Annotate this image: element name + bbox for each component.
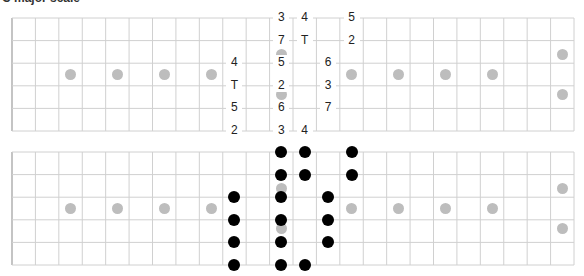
fret-marker-inlay bbox=[346, 203, 357, 214]
fret-marker-inlay bbox=[393, 203, 404, 214]
interval-label: 7 bbox=[320, 100, 336, 114]
fretboard-labeled-intervals: 3457T2456T23567234 bbox=[12, 18, 574, 131]
note-dot bbox=[275, 214, 287, 226]
fret-marker-inlay bbox=[159, 203, 170, 214]
interval-label: 2 bbox=[273, 78, 289, 92]
note-dot bbox=[228, 259, 240, 271]
interval-label: 5 bbox=[226, 100, 242, 114]
interval-label: 3 bbox=[273, 10, 289, 24]
fretboard-note-dots bbox=[12, 152, 574, 265]
fret-marker-inlay bbox=[393, 69, 404, 80]
interval-label: T bbox=[226, 78, 242, 92]
interval-label: 2 bbox=[226, 123, 242, 137]
fret-marker-inlay bbox=[65, 69, 76, 80]
interval-label: 5 bbox=[273, 55, 289, 69]
fret-marker-double-inlay bbox=[557, 183, 568, 194]
note-dot bbox=[275, 259, 287, 271]
fret-marker-inlay bbox=[487, 203, 498, 214]
fret-marker-inlay bbox=[65, 203, 76, 214]
interval-label: 3 bbox=[320, 78, 336, 92]
interval-label: T bbox=[297, 33, 313, 47]
interval-label: 2 bbox=[344, 33, 360, 47]
interval-label: 7 bbox=[273, 33, 289, 47]
fret-marker-inlay bbox=[112, 203, 123, 214]
fret-marker-inlay bbox=[346, 69, 357, 80]
note-dot bbox=[299, 169, 311, 181]
interval-label: 6 bbox=[273, 100, 289, 114]
interval-label: 4 bbox=[226, 55, 242, 69]
note-dot bbox=[322, 214, 334, 226]
note-dot bbox=[299, 259, 311, 271]
fret-marker-inlay bbox=[206, 69, 217, 80]
fret-marker-inlay bbox=[159, 69, 170, 80]
note-dot bbox=[299, 146, 311, 158]
interval-label: 3 bbox=[273, 123, 289, 137]
interval-label: 4 bbox=[297, 123, 313, 137]
note-dot bbox=[346, 169, 358, 181]
interval-label: 6 bbox=[320, 55, 336, 69]
fret-marker-inlay bbox=[112, 69, 123, 80]
note-dot bbox=[275, 169, 287, 181]
fret-marker-inlay bbox=[487, 69, 498, 80]
interval-label: 4 bbox=[297, 10, 313, 24]
interval-label: 5 bbox=[344, 10, 360, 24]
note-dot bbox=[346, 146, 358, 158]
fret-marker-inlay bbox=[440, 203, 451, 214]
fret-marker-inlay bbox=[440, 69, 451, 80]
diagram-title: C major scale bbox=[2, 0, 80, 5]
fret-marker-double-inlay bbox=[557, 49, 568, 60]
fret-marker-inlay bbox=[206, 203, 217, 214]
